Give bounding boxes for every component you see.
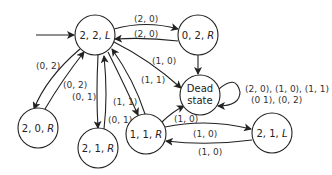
edge-label: (1, 0) bbox=[174, 114, 198, 124]
edge-label: (2, 0) bbox=[134, 14, 158, 24]
svg-text:state: state bbox=[187, 95, 212, 106]
edge-label: (0, 2) bbox=[36, 61, 60, 71]
edge-label: (1, 0) bbox=[193, 129, 217, 139]
node-2-2-L: 2, 2, L bbox=[75, 15, 115, 55]
node-0-2-R: 0, 2, R bbox=[178, 15, 218, 55]
node-dead-state: Dead state bbox=[180, 75, 220, 115]
edge-label: (0 1), (0, 2) bbox=[251, 95, 302, 105]
edge-label: (1, 0) bbox=[152, 56, 176, 66]
node-2-1-R: 2, 1, R bbox=[78, 128, 118, 168]
svg-text:2, 2, L: 2, 2, L bbox=[79, 30, 110, 41]
edge-22L-21R bbox=[97, 55, 98, 128]
node-2-0-R: 2, 0, R bbox=[18, 108, 58, 148]
svg-text:0, 2, R: 0, 2, R bbox=[182, 30, 214, 41]
svg-text:2, 1, L: 2, 1, L bbox=[256, 128, 287, 139]
edge-label: (0, 1) bbox=[72, 92, 96, 102]
edge-label: (2, 0) bbox=[134, 29, 158, 39]
node-1-1-R: 1, 1, R bbox=[126, 114, 166, 154]
svg-text:1, 1, R: 1, 1, R bbox=[130, 129, 162, 140]
svg-text:2, 0, R: 2, 0, R bbox=[22, 123, 54, 134]
svg-text:Dead: Dead bbox=[187, 83, 213, 94]
edge-label: (1, 1) bbox=[113, 97, 137, 107]
edge-label: (2, 0), (1, 0), (1, 1) bbox=[245, 84, 329, 94]
edge-dead-self-loop bbox=[218, 82, 240, 106]
state-diagram: (2, 0) (2, 0) (0, 2) (0, 2) (0, 1) (0, 1… bbox=[0, 0, 332, 175]
node-2-1-L: 2, 1, L bbox=[252, 113, 292, 153]
edge-label: (0, 2) bbox=[63, 80, 87, 90]
edge-21L-11R bbox=[166, 140, 252, 143]
edge-label: (1, 0) bbox=[198, 147, 222, 157]
svg-text:2, 1, R: 2, 1, R bbox=[82, 143, 114, 154]
edge-21R-22L bbox=[104, 56, 106, 129]
edge-label: (1, 1) bbox=[141, 75, 165, 85]
